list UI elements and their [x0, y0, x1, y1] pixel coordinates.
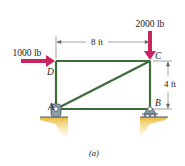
ground-a — [40, 117, 68, 139]
load-label-2000: 2000 lb — [136, 19, 165, 29]
joint-label-d: D — [46, 67, 54, 77]
ground-b — [140, 117, 168, 139]
member-ac — [56, 61, 150, 109]
joint-label-b: B — [155, 98, 161, 108]
truss-diagram: 8 ft 4 ft 1000 lb 2000 lb A B C D (a) — [0, 0, 185, 166]
dimension-horizontal-label: 8 ft — [91, 37, 104, 47]
joint-label-a: A — [47, 102, 54, 112]
truss-members — [56, 61, 150, 109]
load-label-1000: 1000 lb — [13, 48, 42, 58]
joint-label-c: C — [155, 51, 162, 61]
figure-caption: (a) — [89, 148, 99, 158]
dimension-vertical-label: 4 ft — [164, 79, 177, 89]
